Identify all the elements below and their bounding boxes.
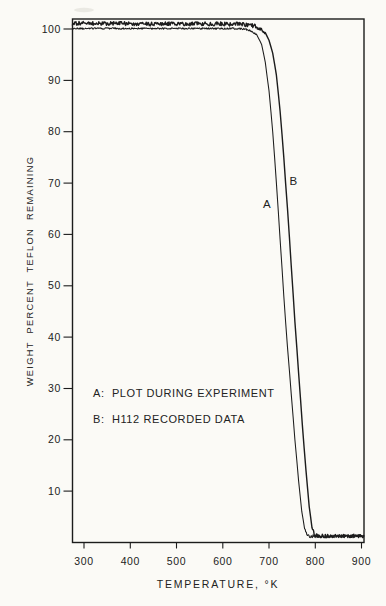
y-axis-ticks: 102030405060708090100 — [42, 23, 73, 497]
y-tick-label: 60 — [48, 228, 61, 240]
legend-line-a: A: PLOT DURING EXPERIMENT — [93, 387, 275, 399]
plot-frame — [73, 19, 365, 543]
curve-a-label: A — [263, 198, 271, 210]
y-tick-label: 30 — [48, 382, 61, 394]
y-tick-label: 40 — [48, 331, 61, 343]
curve-b-label: B — [289, 175, 297, 187]
tga-chart: 102030405060708090100 300400500600700800… — [0, 0, 386, 606]
y-tick-label: 80 — [48, 125, 61, 137]
x-tick-label: 500 — [167, 555, 186, 567]
scan-smudge — [74, 8, 94, 12]
curve-a — [72, 28, 363, 538]
curves — [72, 21, 363, 538]
y-tick-label: 70 — [48, 177, 61, 189]
y-tick-label: 20 — [48, 433, 61, 445]
y-axis-title: WEIGHT PERCENT TEFLON REMAINING — [25, 156, 35, 387]
legend-line-b: B: H112 RECORDED DATA — [93, 413, 245, 425]
y-tick-label: 50 — [48, 279, 61, 291]
x-axis-ticks: 300400500600700800900 — [74, 543, 371, 568]
y-tick-label: 10 — [48, 485, 61, 497]
x-tick-label: 700 — [259, 555, 278, 567]
x-tick-label: 800 — [306, 555, 325, 567]
curve-b — [72, 21, 363, 537]
x-tick-label: 300 — [74, 555, 93, 567]
y-tick-label: 100 — [42, 23, 61, 35]
x-tick-label: 900 — [352, 555, 371, 567]
scanned-figure-page: 102030405060708090100 300400500600700800… — [0, 0, 386, 606]
x-tick-label: 600 — [213, 555, 232, 567]
x-tick-label: 400 — [121, 555, 140, 567]
x-axis-title: TEMPERATURE, °K — [157, 578, 280, 590]
y-tick-label: 90 — [48, 74, 61, 86]
